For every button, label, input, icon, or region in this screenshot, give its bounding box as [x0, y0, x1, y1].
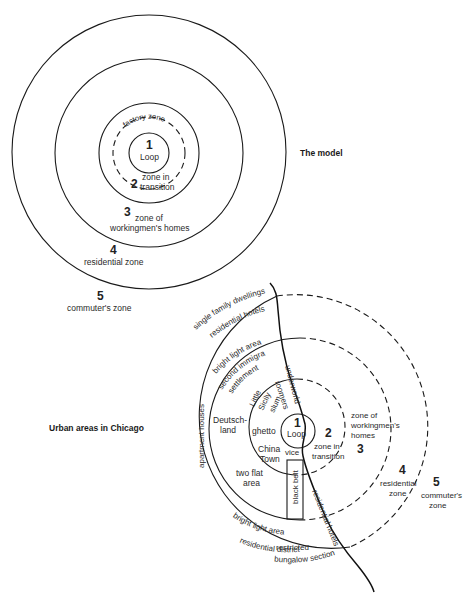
model-zone5-name: commuter's zone	[67, 303, 132, 313]
chicago-zone5-number: 5	[433, 475, 440, 489]
chicago-zone5-line2: zone	[429, 501, 447, 510]
second-immigrant-label: second immigrant	[0, 0, 267, 391]
model-factory-label: factory zone	[121, 112, 166, 129]
ghetto-label: ghetto	[252, 426, 276, 436]
chicago-zone4-number: 4	[399, 463, 406, 477]
model-title: The model	[300, 148, 343, 158]
model-zone2-line1: zone in	[142, 172, 170, 182]
bright-light-south-label: bright light area	[231, 511, 285, 537]
chicago-zone4-line2: zone	[389, 489, 407, 498]
model-zone3-number: 3	[124, 205, 131, 219]
model-diagram: factory zone 1 Loop 2 zone in transition…	[12, 15, 343, 313]
chicago-zone4-line1: residential	[380, 479, 417, 488]
chicago-zone3-line3: homes	[351, 431, 375, 440]
chicago-zone3-line1: zone of	[351, 411, 378, 420]
apartment-houses-label: apartment houses	[197, 404, 206, 468]
chicago-zone5-line1: commuter's	[421, 491, 462, 500]
town-label: Town	[260, 454, 280, 464]
vice-label: vice	[285, 448, 300, 457]
chicago-zone2-line1: zone in	[314, 442, 340, 451]
model-zone4-number: 4	[110, 243, 117, 257]
two-flat-label-2: area	[243, 478, 260, 488]
chicago-title: Urban areas in Chicago	[49, 423, 144, 433]
deutschland-label-1: Deutsch-	[213, 415, 247, 425]
model-zone4-name: residential zone	[84, 257, 144, 267]
model-zone3-line2: workingmen's homes	[109, 223, 190, 233]
deutschland-label-2: land	[220, 425, 236, 435]
black-belt-label: black belt	[291, 469, 300, 504]
chicago-zone3-number: 3	[357, 442, 364, 456]
china-label: China	[258, 444, 280, 454]
model-zone1-number: 1	[146, 138, 153, 152]
model-zone1-name: Loop	[140, 152, 159, 162]
two-flat-label-1: two flat	[236, 468, 264, 478]
chicago-zone3-line2: workingmen's	[350, 421, 400, 430]
model-zone3-line1: zone of	[135, 213, 164, 223]
model-zone2-line2: transition	[140, 182, 175, 192]
chicago-zone2-line2: transition	[312, 452, 344, 461]
model-zone2-number: 2	[131, 177, 138, 191]
chicago-zone1-name: Loop	[287, 429, 306, 439]
diagram-canvas: factory zone 1 Loop 2 zone in transition…	[0, 0, 474, 594]
chicago-zone1-number: 1	[294, 416, 301, 430]
residential-hotels-south-label: residential hotels	[310, 488, 341, 547]
chicago-diagram: Urban areas in Chicago black belt 1 Loop…	[0, 0, 462, 592]
chicago-zone2-number: 2	[325, 426, 332, 440]
model-zone5-number: 5	[97, 289, 104, 303]
